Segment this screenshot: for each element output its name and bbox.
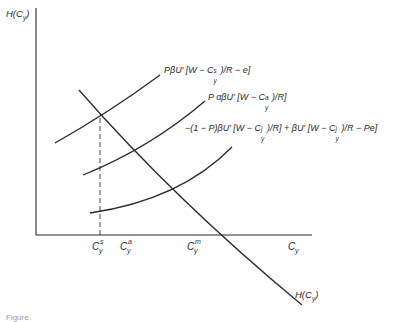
x-axis-label: Cy xyxy=(288,242,295,252)
curve-p-alpha-beta-u-a xyxy=(83,101,205,175)
curve-j-combined xyxy=(90,147,232,213)
label-curve-h-c-y: H(Cy) xyxy=(295,290,318,300)
tick-c-y-m: Cmy xyxy=(187,242,194,252)
label-curve-p-alpha-beta-u-a: P αβU′ [W − Cay)/R] xyxy=(208,93,286,102)
y-axis-label: H(Cy) xyxy=(6,9,29,19)
curve-p-beta-u-s xyxy=(55,75,160,143)
label-curve-p-beta-u-s: PβU′ [W − Csy)/R − e] xyxy=(164,66,250,75)
tick-c-y-a: Cay xyxy=(120,242,127,252)
tick-c-y-s: Csy xyxy=(92,242,99,252)
label-curve-j-combined: −(1 − P)βU′ [W − Cjy)/R] + βU′ [W − Cjy)… xyxy=(185,124,377,133)
figure-caption: Figure xyxy=(6,313,29,322)
